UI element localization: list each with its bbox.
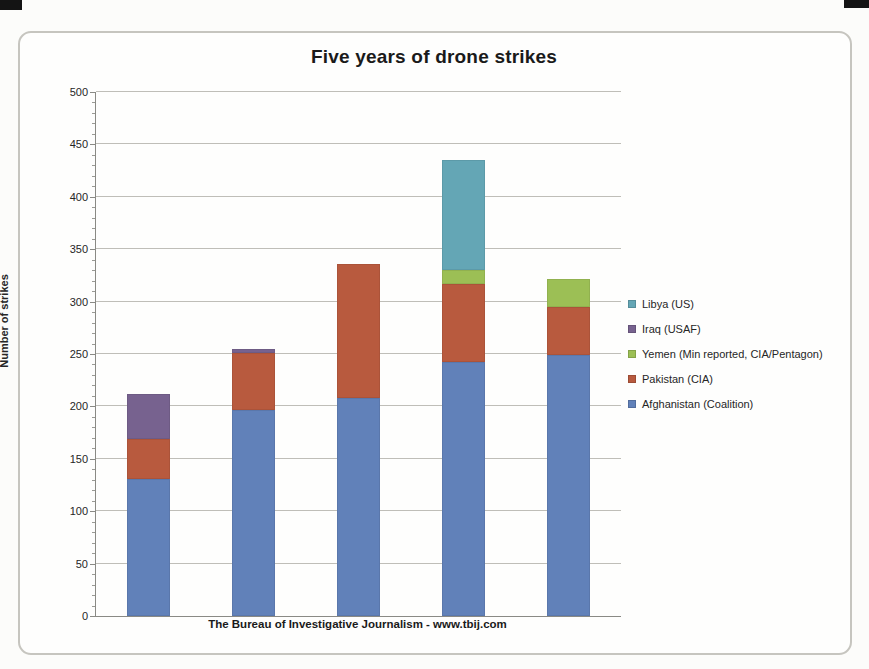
- y-tick-label: 450: [44, 137, 88, 151]
- y-axis-tick: [92, 239, 95, 240]
- y-axis-tick: [92, 448, 95, 449]
- bar-segment: [442, 270, 485, 284]
- legend-swatch-icon: [628, 350, 636, 358]
- gridline: [96, 248, 621, 249]
- y-axis-tick: [90, 92, 95, 93]
- y-tick-label: 250: [44, 347, 88, 361]
- y-axis-tick: [92, 427, 95, 428]
- source-caption: The Bureau of Investigative Journalism -…: [95, 618, 620, 630]
- y-tick-label: 100: [44, 504, 88, 518]
- scan-artifact-top-right: [844, 0, 869, 8]
- y-tick-label: 0: [44, 609, 88, 623]
- legend-swatch-icon: [628, 300, 636, 308]
- y-axis-tick: [92, 281, 95, 282]
- y-axis-tick: [92, 522, 95, 523]
- y-axis-tick: [92, 574, 95, 575]
- y-axis-tick: [90, 144, 95, 145]
- y-axis-tick: [92, 134, 95, 135]
- y-axis-tick: [92, 228, 95, 229]
- y-axis-tick: [92, 606, 95, 607]
- bar-segment: [547, 355, 590, 616]
- y-axis-tick: [92, 396, 95, 397]
- y-axis-tick: [92, 113, 95, 114]
- y-axis-tick: [90, 249, 95, 250]
- bar: [547, 279, 590, 616]
- y-axis-tick: [90, 354, 95, 355]
- bar-segment: [547, 307, 590, 355]
- y-axis-tick: [92, 186, 95, 187]
- y-axis-tick: [90, 406, 95, 407]
- y-tick-label: 350: [44, 242, 88, 256]
- y-axis-tick: [92, 312, 95, 313]
- bar: [337, 264, 380, 616]
- bar-segment: [442, 284, 485, 363]
- y-tick-label: 50: [44, 557, 88, 571]
- y-axis-tick: [92, 417, 95, 418]
- bar-segment: [547, 279, 590, 307]
- y-tick-label: 400: [44, 190, 88, 204]
- y-axis-tick: [90, 616, 95, 617]
- gridline: [96, 196, 621, 197]
- y-axis-tick: [92, 543, 95, 544]
- legend-label: Yemen (Min reported, CIA/Pentagon): [642, 348, 823, 360]
- legend-label: Libya (US): [642, 298, 694, 310]
- y-axis-tick: [90, 459, 95, 460]
- legend-item: Afghanistan (Coalition): [628, 397, 863, 411]
- bar-segment: [232, 353, 275, 410]
- legend-swatch-icon: [628, 375, 636, 383]
- bar: [127, 394, 170, 616]
- y-axis-tick: [92, 260, 95, 261]
- y-axis-tick: [92, 595, 95, 596]
- y-axis-tick: [90, 511, 95, 512]
- y-axis-tick: [92, 176, 95, 177]
- y-axis-tick: [92, 155, 95, 156]
- y-axis-tick: [92, 165, 95, 166]
- y-axis-tick: [92, 333, 95, 334]
- y-axis-tick: [92, 438, 95, 439]
- y-axis-tick: [90, 564, 95, 565]
- bar-segment: [442, 362, 485, 616]
- y-axis-tick: [92, 385, 95, 386]
- legend-item: Yemen (Min reported, CIA/Pentagon): [628, 347, 863, 361]
- y-axis-tick: [92, 207, 95, 208]
- bar-segment: [127, 394, 170, 439]
- y-axis-tick: [92, 501, 95, 502]
- bar: [442, 160, 485, 616]
- legend-item: Libya (US): [628, 297, 863, 311]
- y-axis-tick: [92, 469, 95, 470]
- bar-segment: [127, 479, 170, 616]
- y-axis-tick: [92, 375, 95, 376]
- y-axis-tick: [92, 323, 95, 324]
- y-axis-tick: [92, 490, 95, 491]
- gridline: [96, 91, 621, 92]
- y-axis-tick: [92, 102, 95, 103]
- legend-swatch-icon: [628, 325, 636, 333]
- bar-segment: [337, 398, 380, 616]
- y-axis-tick: [92, 364, 95, 365]
- chart-title: Five years of drone strikes: [18, 46, 850, 68]
- legend-label: Iraq (USAF): [642, 323, 701, 335]
- y-axis-title: Number of strikes: [0, 256, 10, 386]
- legend-label: Afghanistan (Coalition): [642, 398, 753, 410]
- legend-label: Pakistan (CIA): [642, 373, 713, 385]
- y-tick-label: 500: [44, 85, 88, 99]
- y-axis-tick: [92, 344, 95, 345]
- y-axis-tick: [92, 553, 95, 554]
- y-axis-tick: [92, 585, 95, 586]
- y-axis-tick: [92, 218, 95, 219]
- bar-segment: [442, 160, 485, 270]
- plot-area: 050100150200250300350400450500: [95, 92, 621, 617]
- bar-segment: [232, 410, 275, 616]
- y-tick-label: 300: [44, 295, 88, 309]
- legend-swatch-icon: [628, 400, 636, 408]
- scanned-chart-page: Five years of drone strikes Number of st…: [0, 0, 869, 669]
- y-axis-tick: [92, 480, 95, 481]
- bar: [232, 349, 275, 616]
- y-tick-label: 200: [44, 399, 88, 413]
- bar-segment: [337, 264, 380, 398]
- y-axis-tick: [90, 197, 95, 198]
- legend-item: Pakistan (CIA): [628, 372, 863, 386]
- legend-item: Iraq (USAF): [628, 322, 863, 336]
- y-axis-tick: [92, 532, 95, 533]
- y-tick-label: 150: [44, 452, 88, 466]
